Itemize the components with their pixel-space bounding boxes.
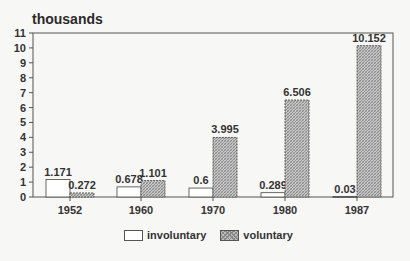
legend-label-involuntary: involuntary xyxy=(147,229,206,241)
bars: 1.1710.2720.6781.1010.63.9950.2896.5060.… xyxy=(44,32,386,198)
bar-voluntary-1960 xyxy=(141,181,165,197)
y-tick-label: 1 xyxy=(20,176,26,188)
bar-involuntary-1960 xyxy=(117,187,141,197)
x-tick-label: 1980 xyxy=(273,204,297,216)
y-tick-label: 5 xyxy=(20,116,26,128)
bar-involuntary-1987 xyxy=(333,197,357,198)
x-tick-label: 1960 xyxy=(129,204,153,216)
y-axis: 01234567891011 xyxy=(14,27,33,203)
data-label-involuntary: 1.171 xyxy=(44,166,72,178)
legend-item-involuntary: involuntary xyxy=(124,229,206,241)
data-label-involuntary: 0.03 xyxy=(334,183,355,195)
y-tick-label: 9 xyxy=(20,57,26,69)
y-tick-label: 2 xyxy=(20,161,26,173)
bar-voluntary-1980 xyxy=(285,100,309,197)
x-tick-label: 1970 xyxy=(201,204,225,216)
bar-involuntary-1980 xyxy=(261,193,285,197)
data-label-voluntary: 6.506 xyxy=(283,86,311,98)
legend-swatch-involuntary xyxy=(124,230,143,241)
data-label-voluntary: 0.272 xyxy=(68,179,96,191)
legend-swatch-voluntary xyxy=(220,230,239,241)
bar-voluntary-1970 xyxy=(213,137,237,197)
legend-item-voluntary: voluntary xyxy=(220,229,293,241)
x-axis: 19521960197019801987 xyxy=(58,197,369,216)
y-tick-label: 10 xyxy=(14,42,26,54)
data-label-voluntary: 1.101 xyxy=(139,167,167,179)
legend: involuntary voluntary xyxy=(124,229,307,241)
y-tick-label: 4 xyxy=(20,131,27,143)
data-label-voluntary: 10.152 xyxy=(352,32,386,44)
y-tick-label: 11 xyxy=(14,27,26,39)
bar-involuntary-1970 xyxy=(189,188,213,197)
legend-label-voluntary: voluntary xyxy=(243,229,293,241)
y-tick-label: 0 xyxy=(20,191,26,203)
x-tick-label: 1952 xyxy=(58,204,82,216)
bar-involuntary-1952 xyxy=(46,180,70,197)
bar-voluntary-1987 xyxy=(357,46,381,197)
x-tick-label: 1987 xyxy=(345,204,369,216)
y-tick-label: 7 xyxy=(20,87,26,99)
y-tick-label: 3 xyxy=(20,146,26,158)
bar-chart: 01234567891011 1.1710.2720.6781.1010.63.… xyxy=(0,0,410,261)
y-tick-label: 6 xyxy=(20,102,26,114)
data-label-involuntary: 0.289 xyxy=(259,179,287,191)
bar-voluntary-1952 xyxy=(70,193,94,197)
data-label-involuntary: 0.6 xyxy=(193,174,208,186)
data-label-voluntary: 3.995 xyxy=(211,123,239,135)
y-tick-label: 8 xyxy=(20,72,26,84)
